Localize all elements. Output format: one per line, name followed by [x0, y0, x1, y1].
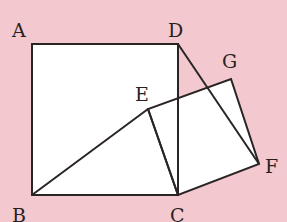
label-a: A — [11, 19, 26, 41]
label-d: D — [168, 19, 183, 41]
label-c: C — [170, 204, 185, 222]
label-b: B — [12, 204, 26, 222]
geometry-diagram: A D G E F B C — [0, 0, 287, 222]
label-f: F — [265, 155, 278, 177]
label-g: G — [222, 50, 237, 72]
label-e: E — [135, 83, 149, 105]
